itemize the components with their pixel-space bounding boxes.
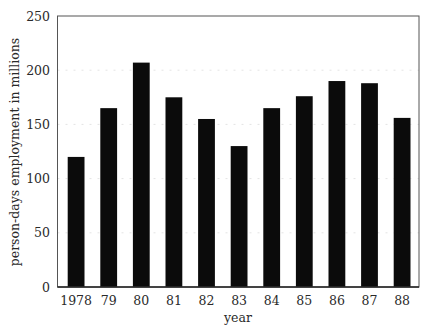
bar-86 bbox=[329, 81, 346, 287]
bar-chart: 050100150200250 197879808182838485868788… bbox=[0, 0, 429, 332]
bar-80 bbox=[133, 63, 150, 287]
x-tick-label-82: 82 bbox=[199, 293, 215, 308]
y-tick-label-50: 50 bbox=[34, 225, 50, 240]
x-tick-label-1978: 1978 bbox=[60, 293, 92, 308]
bar-81 bbox=[166, 97, 183, 287]
y-axis-ticks: 050100150200250 bbox=[26, 9, 50, 295]
bar-82 bbox=[198, 119, 215, 287]
y-tick-label-200: 200 bbox=[26, 63, 50, 78]
bar-85 bbox=[296, 96, 313, 287]
bar-88 bbox=[394, 118, 411, 287]
y-tick-label-250: 250 bbox=[26, 9, 50, 24]
bars bbox=[68, 63, 411, 287]
x-tick-label-87: 87 bbox=[362, 293, 378, 308]
bar-1978 bbox=[68, 157, 85, 287]
x-axis-title: year bbox=[223, 310, 252, 325]
x-tick-label-83: 83 bbox=[231, 293, 247, 308]
x-tick-label-85: 85 bbox=[296, 293, 312, 308]
bar-84 bbox=[263, 108, 280, 287]
x-tick-label-81: 81 bbox=[166, 293, 182, 308]
x-axis-ticks: 197879808182838485868788 bbox=[60, 293, 410, 308]
bar-79 bbox=[100, 108, 117, 287]
bar-87 bbox=[361, 83, 378, 287]
x-tick-label-84: 84 bbox=[264, 293, 280, 308]
y-tick-label-150: 150 bbox=[26, 117, 50, 132]
y-tick-label-100: 100 bbox=[26, 171, 50, 186]
x-tick-label-88: 88 bbox=[394, 293, 410, 308]
y-axis-title: person-days employment in millions bbox=[7, 38, 22, 267]
x-tick-label-86: 86 bbox=[329, 293, 345, 308]
x-tick-label-79: 79 bbox=[101, 293, 117, 308]
bar-83 bbox=[231, 146, 248, 287]
x-tick-label-80: 80 bbox=[133, 293, 149, 308]
y-tick-label-0: 0 bbox=[42, 280, 50, 295]
